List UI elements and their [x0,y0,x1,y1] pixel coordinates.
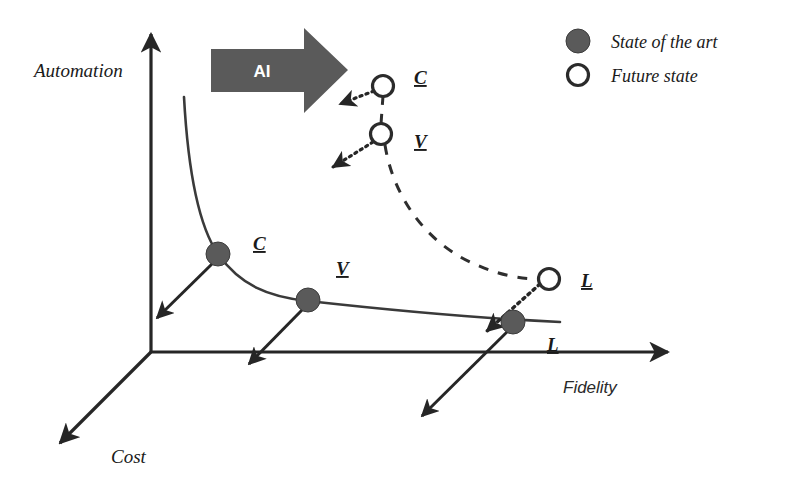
future-label-V: V [414,131,428,152]
future-state-markers [371,76,560,290]
sota-label-L: L [546,334,559,355]
ai-arrow-shape [211,28,348,113]
fidelity-axis-label: Fidelity [563,378,618,397]
sota-point-C[interactable] [206,242,230,266]
future-state-curve [381,96,383,124]
cost-axis-line [60,352,151,443]
future-point-V[interactable] [371,124,392,145]
transition-arrow-from-V [333,142,373,167]
ai-block-arrow: AI [211,28,348,113]
legend-marker-future-state [568,65,589,86]
cost-arrow-group [157,262,509,416]
state-of-the-art-markers [206,242,525,334]
cost-arrow-from-C [157,262,214,318]
future-point-C[interactable] [373,76,394,97]
sota-point-V[interactable] [296,288,320,312]
transition-arrow-group [333,91,540,331]
future-label-L: L [580,270,593,291]
legend-label-future-state: Future state [610,66,698,86]
future-state-curve-lower [385,145,540,279]
cost-axis-label: Cost [111,446,147,467]
cost-arrow-from-L [422,330,509,416]
sota-label-V: V [336,258,350,279]
future-point-L[interactable] [539,269,560,290]
legend: State of the art Future state [566,29,718,86]
legend-label-state-of-the-art: State of the art [611,32,718,52]
automation-axis-label: Automation [32,60,123,81]
sota-point-L[interactable] [501,310,525,334]
diagram-canvas: Automation Fidelity Cost AI [0,0,796,484]
cost-arrow-from-V [249,309,303,364]
sota-label-C: C [253,233,266,254]
legend-marker-state-of-the-art [566,29,590,53]
future-label-C: C [414,67,427,88]
transition-arrow-from-C [340,91,374,104]
tradeoff-diagram: Automation Fidelity Cost AI [0,0,796,484]
ai-arrow-label: AI [254,62,271,81]
